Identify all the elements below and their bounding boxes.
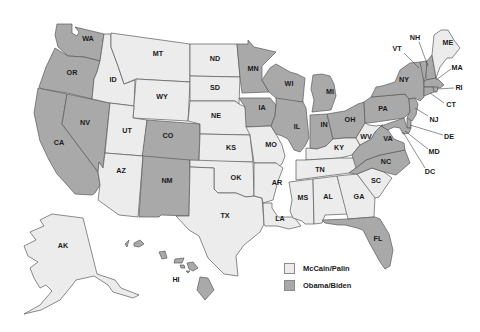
callout-label-ri: RI [455, 83, 462, 92]
legend-label-obama: Obama/Biden [303, 281, 351, 290]
hawaii-island[interactable] [197, 277, 214, 300]
state-label-nv: NV [80, 118, 90, 127]
state-nm[interactable] [139, 156, 190, 217]
state-label-mi: MI [326, 87, 334, 96]
state-label-fl: FL [374, 234, 383, 243]
leader-line-nj [415, 108, 428, 116]
legend-label-mccain: McCain/Palin [303, 264, 350, 273]
hawaii-island[interactable] [187, 262, 198, 271]
legend-item-mccain: McCain/Palin [284, 260, 351, 276]
state-wi[interactable] [262, 64, 305, 102]
state-label-wi: WI [285, 79, 294, 88]
legend-item-obama: Obama/Biden [284, 277, 351, 293]
callout-label-md: MD [428, 147, 439, 156]
state-mt[interactable] [111, 33, 190, 84]
hawaii-island[interactable] [174, 258, 184, 263]
hawaii-island[interactable] [134, 240, 144, 247]
state-label-nc: NC [381, 157, 391, 166]
state-label-in: IN [320, 120, 327, 129]
state-label-ca: CA [54, 138, 64, 147]
state-hi[interactable] [125, 240, 214, 300]
state-label-ny: NY [399, 75, 409, 84]
state-label-la: LA [275, 214, 285, 223]
state-label-ne: NE [211, 111, 221, 120]
state-label-sc: SC [371, 176, 381, 185]
obama-swatch [284, 280, 295, 291]
legend: McCain/Palin Obama/Biden [284, 260, 351, 294]
state-label-me: ME [443, 38, 454, 47]
state-label-ks: KS [226, 143, 236, 152]
state-label-wv: WV [360, 132, 372, 141]
state-label-ms: MS [298, 193, 309, 202]
callout-label-nh: NH [410, 33, 420, 42]
state-label-mo: MO [265, 140, 277, 149]
callout-label-ct: CT [446, 100, 456, 109]
state-label-oh: OH [345, 115, 356, 124]
states-layer [24, 24, 460, 314]
state-label-mt: MT [153, 49, 164, 58]
hawaii-island[interactable] [159, 251, 167, 259]
callout-label-de: DE [444, 132, 454, 141]
state-label-ar: AR [272, 178, 283, 187]
leader-line-ct [430, 93, 444, 103]
state-label-ok: OK [231, 173, 243, 182]
state-label-ia: IA [258, 103, 265, 112]
callout-label-ma: MA [451, 63, 462, 72]
callout-label-nj: NJ [429, 115, 438, 124]
mccain-swatch [284, 263, 295, 274]
state-label-az: AZ [116, 166, 126, 175]
callout-label-vt: VT [392, 44, 402, 53]
state-co[interactable] [142, 120, 200, 162]
state-label-nm: NM [161, 176, 172, 185]
hawaii-island[interactable] [186, 271, 190, 273]
state-label-va: VA [383, 134, 392, 143]
hawaii-island[interactable] [125, 240, 129, 247]
state-label-ut: UT [122, 126, 132, 135]
state-label-tn: TN [315, 165, 325, 174]
state-label-wy: WY [156, 92, 168, 101]
state-label-pa: PA [378, 104, 387, 113]
state-label-nd: ND [210, 54, 220, 63]
us-election-map: WAORCANVIDMTWYUTCOAZNMNDSDNEKSOKTXMNIAMO… [0, 0, 480, 332]
state-ak[interactable] [24, 214, 139, 314]
state-label-sd: SD [210, 83, 220, 92]
state-label-al: AL [323, 192, 333, 201]
state-label-il: IL [294, 122, 301, 131]
state-ma[interactable] [424, 78, 444, 88]
state-label-hi: HI [172, 275, 179, 284]
hawaii-island[interactable] [180, 265, 185, 268]
state-label-co: CO [163, 131, 174, 140]
state-label-or: OR [67, 68, 79, 77]
state-label-tx: TX [220, 211, 229, 220]
leader-line-md [405, 131, 428, 149]
callout-label-dc: DC [425, 167, 435, 176]
state-label-mn: MN [247, 64, 258, 73]
state-label-ak: AK [58, 241, 69, 250]
state-az[interactable] [98, 153, 143, 217]
leader-line-de [410, 125, 443, 135]
state-label-ky: KY [334, 143, 344, 152]
state-label-wa: WA [82, 34, 94, 43]
state-label-id: ID [109, 75, 116, 84]
state-label-ga: GA [354, 192, 365, 201]
